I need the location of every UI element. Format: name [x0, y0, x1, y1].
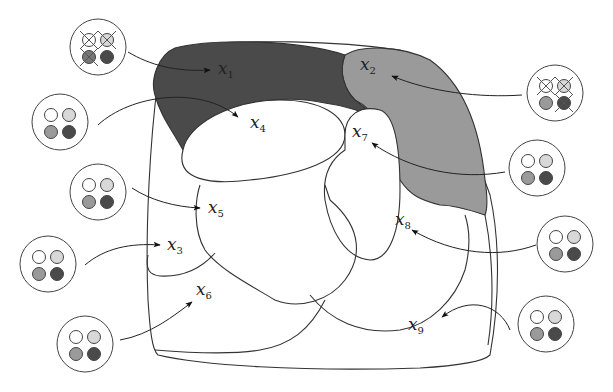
- state-circle-x8: [537, 216, 593, 272]
- partition-diagram: x1 x2 x3 x4 x5 x6 x7 x8 x9: [0, 0, 613, 392]
- state-circle-x7: [509, 140, 565, 196]
- state-circle-x3: [20, 236, 76, 292]
- state-circle-x6: [57, 316, 113, 372]
- state-circle-x1: [70, 19, 126, 75]
- state-circle-x4: [32, 94, 88, 150]
- state-circle-x9: [518, 296, 574, 352]
- state-circle-x5: [70, 164, 126, 220]
- state-circle-x2: [527, 65, 583, 121]
